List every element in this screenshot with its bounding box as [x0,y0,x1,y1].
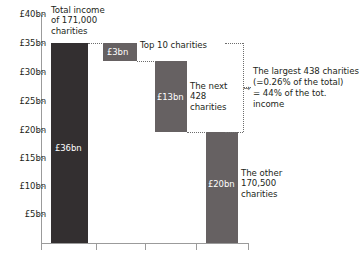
annotation-other-170500-charities: The other 170,500 charities [241,168,297,199]
y-tick-mark-25 [36,101,46,102]
x-tick-3 [196,243,197,250]
bar-total-income: £36bn [51,43,88,243]
y-tick-mark-40 [36,14,46,15]
x-tick-0 [41,243,42,250]
x-tick-4 [248,243,249,250]
y-tick-mark-35 [36,43,46,44]
x-tick-1 [96,243,97,250]
annotation-top-10-charities: Top 10 charities [140,40,220,50]
connector-total-to-top10 [88,43,104,44]
bracket-top-arm [225,43,243,44]
bar-value-next-428: £13bn [157,92,184,102]
y-tick-mark-30 [36,72,46,73]
y-tick-mark-20 [36,130,46,131]
connector-top10-to-next428 [137,61,156,62]
bar-other-170500-charities: £20bn [206,132,238,243]
bar-top-10-charities: £3bn [103,43,137,61]
bracket-bottom-arm [225,132,243,133]
annotation-next-428-charities: The next 428 charities [190,81,245,112]
bar-next-428-charities: £13bn [155,61,187,132]
y-tick-mark-10 [36,186,46,187]
waterfall-chart: £40bn £35bn £30bn £25bn £20bn £15bn £10b… [0,0,359,260]
bar-value-total-income: £36bn [55,143,82,153]
y-tick-mark-5 [36,214,46,215]
connector-next428-to-other [187,132,207,133]
annotation-callout-largest-438: The largest 438 charities (=0.26% of the… [253,66,359,110]
bar-value-top-10: £3bn [107,47,128,57]
x-tick-2 [145,243,146,250]
y-tick-mark-15 [36,158,46,159]
annotation-total-income: Total income of 171,000 charities [51,5,111,36]
bar-value-other-170500: £20bn [208,179,235,189]
